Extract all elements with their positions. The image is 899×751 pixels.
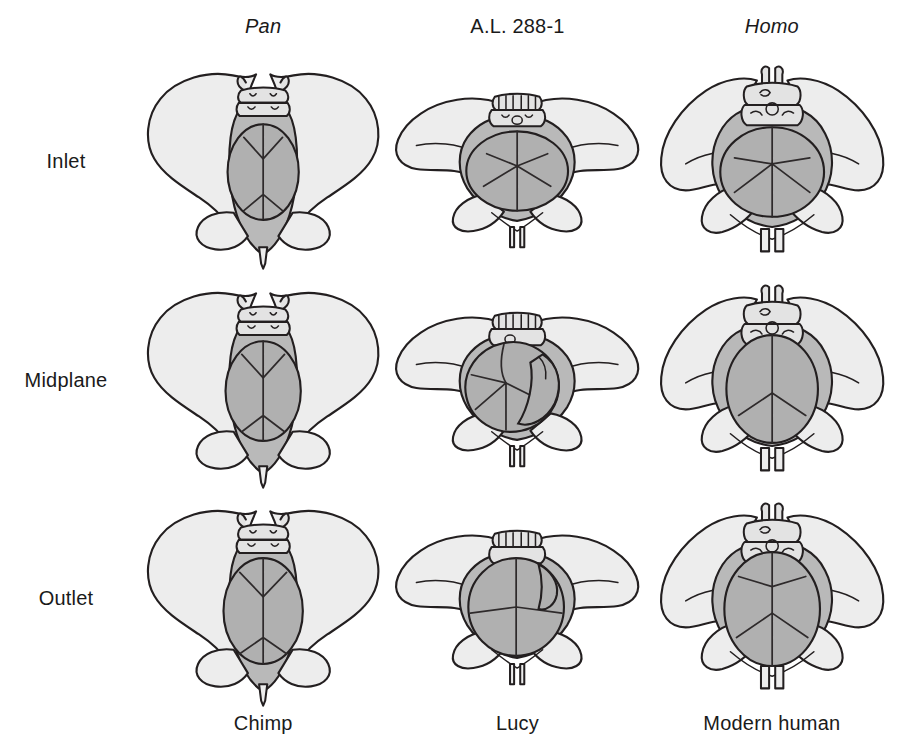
header-corner-spacer	[0, 0, 136, 52]
pelvis-diagram-homo-outlet	[645, 489, 899, 708]
pelvis-comparison-figure: Pan A.L. 288-1 Homo Inlet	[0, 0, 899, 751]
row-label-inlet: Inlet	[0, 52, 136, 271]
footer-label-chimp: Chimp	[136, 708, 390, 751]
pelvis-diagram-al288-midplane	[390, 271, 644, 490]
pelvis-diagram-pan-outlet	[136, 489, 390, 708]
pelvis-diagram-al288-outlet	[390, 489, 644, 708]
column-header-homo: Homo	[645, 0, 899, 52]
pelvis-diagram-homo-midplane	[645, 271, 899, 490]
row-label-midplane: Midplane	[0, 271, 136, 490]
pelvis-diagram-pan-inlet	[136, 52, 390, 271]
row-label-outlet: Outlet	[0, 489, 136, 708]
column-header-al288: A.L. 288-1	[390, 0, 644, 52]
footer-label-modern-human: Modern human	[645, 708, 899, 751]
pelvis-diagram-homo-inlet	[645, 52, 899, 271]
footer-label-lucy: Lucy	[390, 708, 644, 751]
pelvis-diagram-al288-inlet	[390, 52, 644, 271]
column-header-pan: Pan	[136, 0, 390, 52]
footer-corner-spacer	[0, 708, 136, 751]
pelvis-diagram-pan-midplane	[136, 271, 390, 490]
